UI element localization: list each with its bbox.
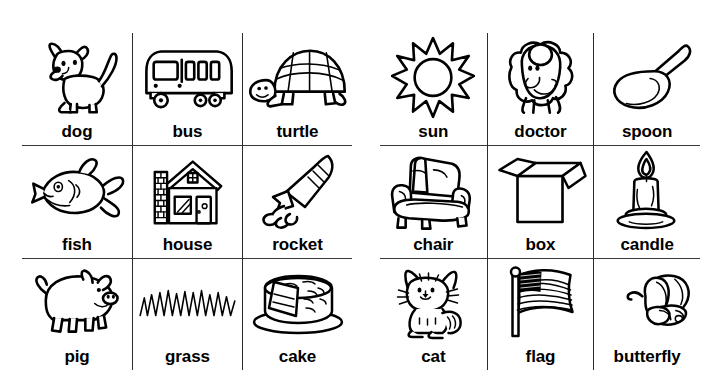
picture-card-chair[interactable]: chair: [380, 145, 487, 257]
picture-card-box[interactable]: box: [487, 145, 594, 257]
turtle-icon: [245, 33, 350, 123]
dog-icon: [24, 33, 130, 123]
picture-card-cake[interactable]: cake: [242, 258, 352, 370]
fish-icon: [24, 145, 130, 235]
cake-icon: [245, 258, 350, 349]
right-panel-grid: sun: [380, 33, 700, 370]
card-label: dog: [62, 123, 93, 142]
right-panel: sun: [380, 33, 700, 370]
sun-icon: [382, 33, 485, 123]
candle-icon: [596, 145, 698, 235]
spoon-icon: [596, 33, 698, 123]
picture-card-turtle[interactable]: turtle: [242, 33, 352, 145]
card-label: cat: [421, 348, 445, 367]
picture-card-candle[interactable]: candle: [593, 145, 700, 257]
house-icon: [135, 145, 240, 235]
card-label: turtle: [277, 123, 319, 142]
card-label: sun: [418, 123, 448, 142]
pig-icon: [24, 258, 130, 349]
picture-card-grass[interactable]: grass: [132, 258, 242, 370]
picture-card-pig[interactable]: pig: [22, 258, 132, 370]
picture-card-sun[interactable]: sun: [380, 33, 487, 145]
card-label: house: [163, 236, 213, 255]
picture-card-house[interactable]: house: [132, 145, 242, 257]
card-label: doctor: [514, 123, 566, 142]
left-panel-grid: dog: [22, 33, 352, 370]
card-label: butterfly: [614, 348, 681, 367]
card-label: flag: [526, 348, 556, 367]
picture-card-butterfly[interactable]: butterfly: [593, 258, 700, 370]
picture-card-doctor[interactable]: doctor: [487, 33, 594, 145]
card-label: pig: [64, 348, 89, 367]
card-label: bus: [173, 123, 203, 142]
worksheet-sheet: dog: [0, 0, 716, 384]
box-icon: [490, 145, 592, 235]
card-label: box: [526, 236, 556, 255]
card-label: grass: [165, 348, 210, 367]
picture-card-rocket[interactable]: rocket: [242, 145, 352, 257]
doctor-icon: [490, 33, 592, 123]
picture-card-fish[interactable]: fish: [22, 145, 132, 257]
picture-card-dog[interactable]: dog: [22, 33, 132, 145]
picture-card-cat[interactable]: cat: [380, 258, 487, 370]
rocket-icon: [245, 145, 350, 235]
card-label: chair: [413, 236, 453, 255]
flag-icon: [490, 258, 592, 349]
left-panel: dog: [22, 33, 352, 370]
grass-icon: [135, 258, 240, 349]
bus-icon: [135, 33, 240, 123]
card-label: cake: [279, 348, 316, 367]
picture-card-flag[interactable]: flag: [487, 258, 594, 370]
picture-card-bus[interactable]: bus: [132, 33, 242, 145]
card-label: spoon: [622, 123, 673, 142]
card-label: rocket: [272, 236, 322, 255]
card-label: candle: [621, 236, 674, 255]
cat-icon: [382, 258, 485, 349]
card-label: fish: [62, 236, 92, 255]
butterfly-icon: [596, 258, 698, 349]
picture-card-spoon[interactable]: spoon: [593, 33, 700, 145]
chair-icon: [382, 145, 485, 235]
